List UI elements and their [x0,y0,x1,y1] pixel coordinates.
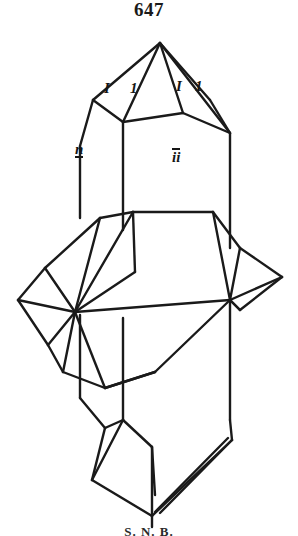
pyramid-edge-internal-left [123,43,160,122]
twin-facet-right-d [230,300,240,310]
upper-pyramid-group [80,43,230,146]
face-label-pyramid-1: I [104,80,110,97]
lower-edge-left-slope [92,428,105,480]
twin-facet-mid-c [105,372,155,388]
crystal-line-drawing [0,0,298,536]
lower-edge-right-outer-a [230,420,232,440]
twin-edge-left-lower [18,300,48,345]
pyramid-edge-left-lower [93,100,123,122]
face-label-pyramid-2: 1 [130,80,138,97]
face-label-pyramid-4: 1 [195,78,203,95]
twin-edge-upper-left [45,218,100,268]
twin-crystal-group [18,212,282,388]
lower-termination-group [80,398,232,527]
twin-facet-left-c [18,300,75,312]
lower-edge-left-chamfer [80,398,105,428]
figure-page: 647 [0,0,298,536]
twin-facet-left-g [75,212,133,312]
twin-edge-left-upper [18,268,45,300]
lower-facet-inner [92,420,123,480]
figure-caption: S. N. B. [0,524,298,536]
main-prism-group [80,122,230,420]
twin-facet-axis [75,300,230,312]
lower-edge-bottom-right-b [160,440,232,513]
face-label-prism-right: ii [172,148,180,165]
lower-edge-center-right [123,420,152,447]
twin-edge-lower-right [155,300,230,372]
lower-edge-bottom-left [92,480,152,516]
face-label-pyramid-3: I [176,78,182,95]
face-label-prism-left: n [75,143,83,158]
pyramid-edge-front-base [123,113,183,122]
twin-facet-mid-a [133,212,135,272]
lower-edge-bottom-right-c [155,438,228,512]
prism-edge-left-upper [80,100,93,146]
twin-facet-right-b [230,248,240,300]
twin-edge-top-left [100,212,133,218]
twin-facet-left-b [45,268,75,312]
twin-edge-right-upper [240,248,282,277]
twin-edge-lower-left-a [48,345,63,372]
